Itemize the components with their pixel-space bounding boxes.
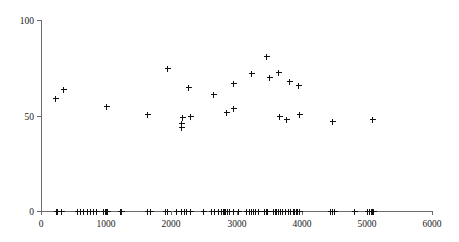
marker-plus <box>231 106 237 112</box>
marker-plus <box>236 209 242 215</box>
data-point-markers <box>53 54 377 215</box>
x-tick-label-0: 0 <box>39 219 44 229</box>
marker-plus <box>277 114 283 120</box>
marker-plus <box>249 71 255 77</box>
y-axis-ticks <box>37 21 41 212</box>
scatter-plot-figure: 0100020003000400050006000 050100 <box>0 0 459 242</box>
marker-plus <box>296 83 302 89</box>
marker-plus <box>179 125 185 131</box>
marker-plus <box>180 115 186 121</box>
marker-plus <box>231 81 237 87</box>
marker-plus <box>330 119 336 125</box>
marker-plus <box>352 209 358 215</box>
marker-plus <box>188 209 194 215</box>
marker-plus <box>256 209 262 215</box>
marker-plus <box>148 209 154 215</box>
marker-plus <box>145 112 151 118</box>
marker-plus <box>284 117 290 123</box>
marker-plus <box>264 54 270 60</box>
marker-plus <box>61 87 67 93</box>
x-tick-label-6000: 6000 <box>423 219 442 229</box>
x-tick-label-2000: 2000 <box>162 219 181 229</box>
y-tick-label-50: 50 <box>25 112 35 122</box>
x-tick-label-4000: 4000 <box>293 219 312 229</box>
marker-plus <box>201 209 207 215</box>
x-tick-label-5000: 5000 <box>358 219 377 229</box>
x-tick-label-1000: 1000 <box>97 219 116 229</box>
marker-plus <box>119 209 125 215</box>
axes-group <box>41 20 432 211</box>
marker-plus <box>186 85 192 91</box>
marker-plus <box>165 66 171 72</box>
marker-plus <box>104 104 110 110</box>
y-axis-tick-labels: 050100 <box>20 16 35 217</box>
marker-plus <box>94 209 100 215</box>
marker-plus <box>224 110 230 116</box>
marker-plus <box>188 114 194 120</box>
marker-plus <box>267 75 273 81</box>
marker-plus <box>370 117 376 123</box>
x-axis-tick-labels: 0100020003000400050006000 <box>39 219 442 229</box>
x-tick-label-3000: 3000 <box>228 219 247 229</box>
y-tick-label-0: 0 <box>29 207 34 217</box>
marker-plus <box>59 209 65 215</box>
series-upper-cluster <box>53 54 376 131</box>
marker-plus <box>297 112 303 118</box>
marker-plus <box>53 96 59 102</box>
marker-plus <box>276 70 282 76</box>
marker-plus <box>211 92 217 98</box>
series-baseline-rug <box>54 209 377 215</box>
marker-plus <box>265 209 271 215</box>
y-tick-label-100: 100 <box>20 16 35 26</box>
marker-plus <box>287 79 293 85</box>
scatter-plot-canvas: 0100020003000400050006000 050100 <box>0 0 459 242</box>
